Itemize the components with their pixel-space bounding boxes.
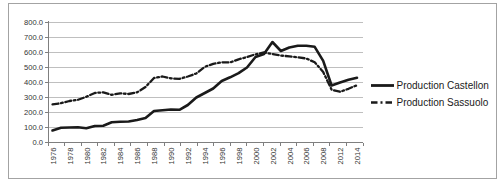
svg-text:500.0: 500.0 xyxy=(24,63,43,72)
svg-text:300.0: 300.0 xyxy=(24,93,43,102)
svg-text:2012: 2012 xyxy=(336,148,345,165)
svg-text:1992: 1992 xyxy=(184,148,193,165)
svg-text:1994: 1994 xyxy=(201,148,210,165)
svg-text:400.0: 400.0 xyxy=(24,78,43,87)
svg-text:100.0: 100.0 xyxy=(24,123,43,132)
production-line-chart: 0.0100.0200.0300.0400.0500.0600.0700.080… xyxy=(0,0,500,192)
svg-text:200.0: 200.0 xyxy=(24,108,43,117)
svg-text:1978: 1978 xyxy=(66,148,75,165)
svg-text:1990: 1990 xyxy=(167,148,176,165)
svg-text:2002: 2002 xyxy=(269,148,278,165)
svg-text:2008: 2008 xyxy=(319,148,328,165)
legend-sassuolo-label: Production Sassuolo xyxy=(397,97,489,108)
svg-text:1976: 1976 xyxy=(49,148,58,165)
svg-text:2014: 2014 xyxy=(353,148,362,165)
svg-text:1982: 1982 xyxy=(99,148,108,165)
svg-text:2000: 2000 xyxy=(252,148,261,165)
svg-text:700.0: 700.0 xyxy=(24,33,43,42)
svg-text:2004: 2004 xyxy=(286,148,295,165)
svg-text:1986: 1986 xyxy=(133,148,142,165)
svg-text:1996: 1996 xyxy=(218,148,227,165)
svg-text:600.0: 600.0 xyxy=(24,48,43,57)
chart-figure: 0.0100.0200.0300.0400.0500.0600.0700.080… xyxy=(0,0,500,192)
legend-castellon-label: Production Castellon xyxy=(397,80,489,91)
svg-text:1980: 1980 xyxy=(83,148,92,165)
svg-text:1988: 1988 xyxy=(150,148,159,165)
svg-text:1984: 1984 xyxy=(116,148,125,165)
svg-text:0.0: 0.0 xyxy=(32,138,43,147)
svg-text:2006: 2006 xyxy=(302,148,311,165)
svg-text:1998: 1998 xyxy=(235,147,244,164)
svg-text:800.0: 800.0 xyxy=(24,18,43,27)
